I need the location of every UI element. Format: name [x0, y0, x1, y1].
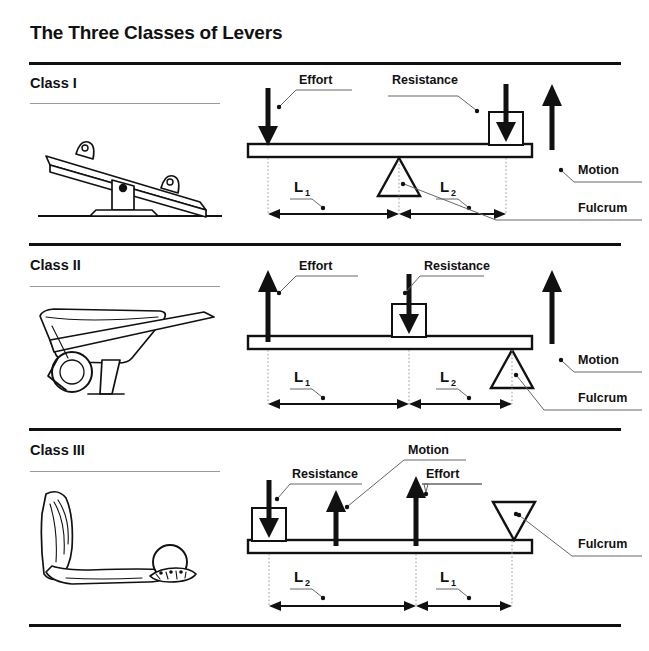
class-2-diagram: L 1 L 2 Effort Resistance — [244, 252, 644, 420]
callout-effort: Effort — [277, 259, 358, 295]
svg-text:Resistance: Resistance — [292, 467, 358, 481]
svg-text:1: 1 — [305, 188, 310, 198]
arm-illustration — [30, 482, 230, 600]
svg-text:Motion: Motion — [578, 163, 619, 177]
svg-text:2: 2 — [305, 578, 310, 588]
dimension-L1 — [268, 209, 399, 219]
resistance-block — [252, 480, 286, 541]
svg-text:L: L — [294, 368, 303, 385]
class-3-diagram: L 2 L 1 Resistance Motion — [244, 436, 644, 611]
callout-resistance: Resistance — [275, 467, 362, 501]
class-1-label: Class I — [30, 75, 77, 91]
lever-beam — [248, 540, 532, 553]
svg-text:L: L — [440, 568, 449, 585]
fulcrum-triangle — [493, 502, 535, 540]
svg-text:1: 1 — [305, 378, 310, 388]
callout-resistance: Resistance — [388, 73, 479, 113]
arm-holding-ball-icon — [30, 482, 230, 600]
motion-arrow — [326, 490, 346, 546]
svg-text:Fulcrum: Fulcrum — [578, 201, 627, 215]
dimension-L1 — [416, 601, 512, 611]
svg-text:2: 2 — [451, 378, 456, 388]
svg-text:L: L — [440, 368, 449, 385]
fulcrum-triangle — [378, 158, 420, 196]
svg-text:1: 1 — [451, 578, 456, 588]
wheelbarrow-illustration — [28, 300, 228, 408]
svg-text:2: 2 — [451, 188, 456, 198]
label-L2: L 2 — [436, 368, 471, 400]
callout-effort: Effort — [277, 73, 352, 109]
lever-beam — [248, 336, 532, 349]
page-title: The Three Classes of Levers — [30, 22, 282, 44]
svg-text:Effort: Effort — [299, 73, 333, 87]
svg-text:Motion: Motion — [408, 443, 449, 457]
label-L1: L 1 — [290, 368, 325, 400]
effort-arrow — [258, 270, 278, 342]
resistance-block — [489, 84, 523, 145]
callout-fulcrum: Fulcrum — [514, 373, 642, 410]
motion-arrow — [542, 84, 562, 150]
divider-1 — [29, 243, 621, 246]
motion-arrow — [542, 270, 562, 344]
wheelbarrow-icon — [28, 300, 228, 408]
class-1-underline — [30, 103, 220, 104]
resistance-block — [392, 274, 426, 337]
svg-text:Fulcrum: Fulcrum — [578, 391, 627, 405]
callout-effort: Effort — [422, 467, 482, 496]
class-2-label: Class II — [30, 257, 81, 273]
svg-text:L: L — [294, 178, 303, 195]
divider-top — [29, 62, 621, 65]
svg-text:Effort: Effort — [299, 259, 333, 273]
callout-fulcrum: Fulcrum — [517, 513, 642, 556]
class-3-underline — [30, 471, 220, 472]
callout-resistance: Resistance — [403, 259, 490, 295]
label-L1: L 1 — [290, 178, 325, 210]
svg-text:Resistance: Resistance — [392, 73, 458, 87]
svg-text:L: L — [440, 178, 449, 195]
effort-arrow — [258, 88, 278, 146]
label-L2: L 2 — [290, 568, 325, 600]
svg-text:Motion: Motion — [578, 353, 619, 367]
levers-figure: The Three Classes of Levers Class I — [0, 0, 649, 651]
svg-text:Resistance: Resistance — [424, 259, 490, 273]
seesaw-icon — [30, 118, 230, 228]
class-1-diagram: L 1 L 2 Effort Resistance — [244, 68, 644, 236]
divider-bottom — [29, 624, 621, 627]
label-L1: L 1 — [436, 568, 471, 600]
seesaw-illustration — [30, 118, 230, 228]
label-L2: L 2 — [436, 178, 471, 210]
class-3-label: Class III — [30, 442, 85, 458]
callout-motion: Motion — [559, 353, 642, 372]
svg-text:Fulcrum: Fulcrum — [578, 537, 627, 551]
dimension-L1 — [268, 399, 409, 409]
effort-arrow — [406, 476, 426, 546]
svg-text:Effort: Effort — [426, 467, 460, 481]
svg-text:L: L — [294, 568, 303, 585]
class-2-underline — [30, 286, 220, 287]
dimension-L2 — [409, 399, 512, 409]
divider-2 — [29, 428, 621, 431]
callout-motion: Motion — [559, 163, 642, 182]
dimension-L2 — [269, 601, 416, 611]
